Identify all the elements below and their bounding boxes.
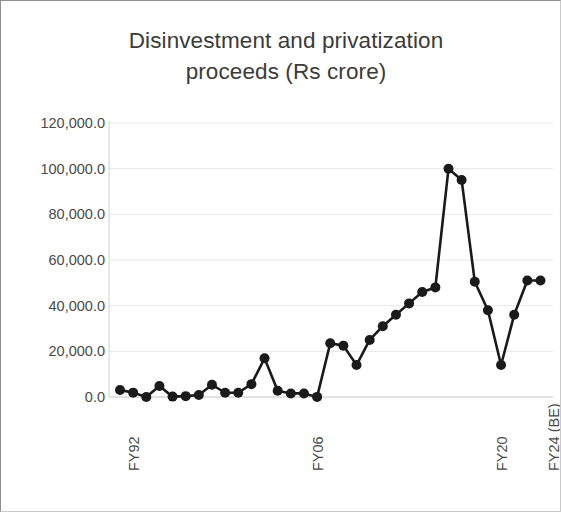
gridlines <box>109 123 553 397</box>
data-point-marker <box>483 305 493 315</box>
data-point-marker <box>417 287 427 297</box>
data-point-marker <box>207 380 217 390</box>
data-point-marker <box>141 392 151 402</box>
data-point-marker <box>430 282 440 292</box>
data-point-marker <box>194 390 204 400</box>
data-point-marker <box>470 277 480 287</box>
data-point-marker <box>154 381 164 391</box>
chart-figure: Disinvestment and privatizationproceeds … <box>0 0 561 512</box>
data-point-marker <box>299 388 309 398</box>
data-point-marker <box>457 175 467 185</box>
data-point-marker <box>312 392 322 402</box>
data-point-marker <box>365 335 375 345</box>
data-point-marker <box>220 388 230 398</box>
data-point-marker <box>338 341 348 351</box>
data-point-marker <box>115 385 125 395</box>
data-point-marker <box>286 388 296 398</box>
data-point-marker <box>128 388 138 398</box>
x-axis-tick-label: FY24 (BE) <box>546 403 561 471</box>
data-point-marker <box>260 353 270 363</box>
data-point-marker <box>168 392 178 402</box>
series-markers <box>115 164 545 402</box>
data-point-marker <box>496 360 506 370</box>
data-point-marker <box>273 386 283 396</box>
data-point-marker <box>509 310 519 320</box>
axis-lines <box>109 121 553 397</box>
data-point-marker <box>535 276 545 286</box>
data-point-marker <box>391 310 401 320</box>
data-point-marker <box>378 321 388 331</box>
data-point-marker <box>522 276 532 286</box>
x-axis-tick-label: FY06 <box>310 436 326 471</box>
x-axis-tick-label: FY92 <box>126 436 142 471</box>
plot-area <box>1 1 561 512</box>
data-point-marker <box>325 338 335 348</box>
x-axis-tick-label: FY20 <box>494 436 510 471</box>
data-point-marker <box>404 298 414 308</box>
data-point-marker <box>444 164 454 174</box>
data-point-marker <box>352 360 362 370</box>
data-point-marker <box>246 379 256 389</box>
data-point-marker <box>181 391 191 401</box>
data-point-marker <box>233 388 243 398</box>
line-chart-svg <box>1 1 561 512</box>
